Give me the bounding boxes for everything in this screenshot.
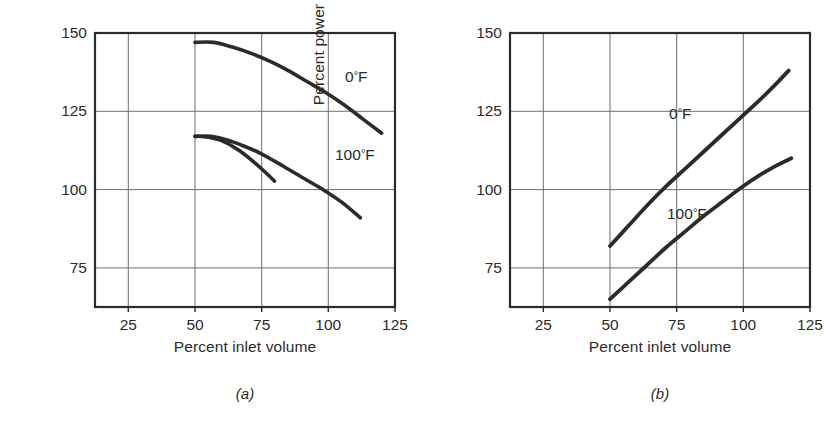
x-tick-label-50-b: 50: [601, 316, 618, 334]
degree-icon: °: [354, 69, 358, 81]
series-annotation-0f-a: 0°F: [345, 68, 368, 86]
series-annotation-0f-b-unit: F: [682, 105, 691, 122]
plot-area-a: [0, 0, 419, 427]
x-tick-label-125-a: 125: [382, 316, 408, 334]
series-annotation-100f-b: 100°F: [667, 205, 707, 223]
y-tick-label-100-b: 100: [460, 181, 502, 199]
x-tick-label-50-a: 50: [186, 316, 203, 334]
x-tick-label-25-b: 25: [535, 316, 552, 334]
series-annotation-0f-a-value: 0: [345, 68, 354, 85]
panel-caption-b: (b): [510, 385, 810, 402]
series-annotation-0f-b: 0°F: [669, 105, 692, 123]
x-tick-label-75-a: 75: [253, 316, 270, 334]
y-tick-label-150-a: 150: [45, 24, 87, 42]
series-annotation-0f-a-unit: F: [358, 68, 367, 85]
y-tick-label-75-a: 75: [45, 259, 87, 277]
x-tick-label-100-b: 100: [730, 316, 756, 334]
chart-panel-b: 150 125 100 75 25 50 75 100 125 0°F 100°…: [419, 0, 838, 427]
degree-icon: °: [678, 106, 682, 118]
series-annotation-100f-b-unit: F: [697, 205, 706, 222]
y-tick-label-125-a: 125: [45, 102, 87, 120]
x-axis-label-a: Percent inlet volume: [95, 338, 395, 356]
y-tick-label-75-b: 75: [460, 259, 502, 277]
series-annotation-100f-a-unit: F: [365, 146, 374, 163]
y-tick-label-125-b: 125: [460, 102, 502, 120]
y-axis-label-b: Percent power: [310, 0, 340, 192]
degree-icon: °: [693, 206, 697, 218]
chart-panel-a: 150 125 100 75 25 50 75 100 125 0°F 100°…: [0, 0, 419, 427]
y-tick-label-150-b: 150: [460, 24, 502, 42]
y-tick-label-100-a: 100: [45, 181, 87, 199]
x-tick-label-25-a: 25: [120, 316, 137, 334]
x-axis-label-b: Percent inlet volume: [510, 338, 810, 356]
series-annotation-0f-b-value: 0: [669, 105, 678, 122]
x-tick-label-125-b: 125: [797, 316, 823, 334]
x-tick-label-100-a: 100: [315, 316, 341, 334]
plot-area-b: [419, 0, 838, 427]
panel-caption-a: (a): [95, 385, 395, 402]
x-tick-label-75-b: 75: [668, 316, 685, 334]
series-annotation-100f-b-value: 100: [667, 205, 693, 222]
figure-container: 150 125 100 75 25 50 75 100 125 0°F 100°…: [0, 0, 838, 427]
degree-icon: °: [361, 147, 365, 159]
series-annotation-100f-a: 100°F: [335, 146, 375, 164]
